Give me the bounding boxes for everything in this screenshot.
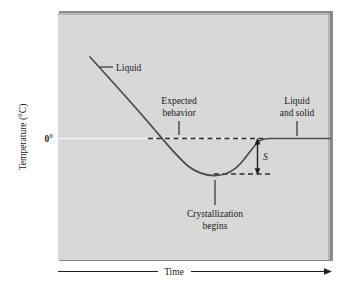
figure-canvas: S Liquid Expected behavior Liquid and so…	[0, 0, 348, 291]
plot-panel	[58, 13, 330, 260]
panel-right-edge	[328, 13, 330, 260]
y-tick-label-zero: 0°	[44, 134, 53, 144]
supercooling-symbol-label: S	[263, 152, 268, 162]
y-axis-title: Temperature (°C)	[18, 104, 29, 171]
liquid-and-solid-label-line1: Liquid	[284, 96, 310, 106]
liquid-label: Liquid	[116, 63, 142, 73]
panel-top-edge	[58, 13, 330, 15]
x-axis-title: Time	[164, 267, 184, 277]
crystallization-label-line2: begins	[203, 221, 228, 231]
expected-behavior-label-line1: Expected	[161, 96, 197, 106]
liquid-and-solid-label-line2: and solid	[280, 108, 315, 118]
cooling-curve-figure: S Liquid Expected behavior Liquid and so…	[0, 0, 348, 291]
crystallization-label-line1: Crystallization	[187, 209, 243, 219]
expected-behavior-label-line2: behavior	[162, 108, 196, 118]
